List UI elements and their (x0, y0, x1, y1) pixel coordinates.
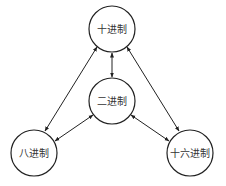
node-label: 十六进制 (170, 147, 210, 159)
edge-binary-octal (55, 115, 93, 141)
edge-decimal-octal (45, 47, 97, 131)
node-label: 二进制 (97, 95, 127, 107)
node-binary: 二进制 (89, 78, 135, 124)
conversion-diagram: 十进制 二进制 八进制 十六进制 (0, 0, 226, 186)
node-octal: 八进制 (11, 130, 57, 176)
node-hexadecimal: 十六进制 (167, 130, 213, 176)
edge-binary-hexadecimal (131, 115, 169, 141)
node-decimal: 十进制 (89, 6, 135, 52)
node-label: 十进制 (97, 23, 127, 35)
node-label: 八进制 (19, 147, 49, 159)
edge-decimal-hexadecimal (127, 47, 179, 131)
